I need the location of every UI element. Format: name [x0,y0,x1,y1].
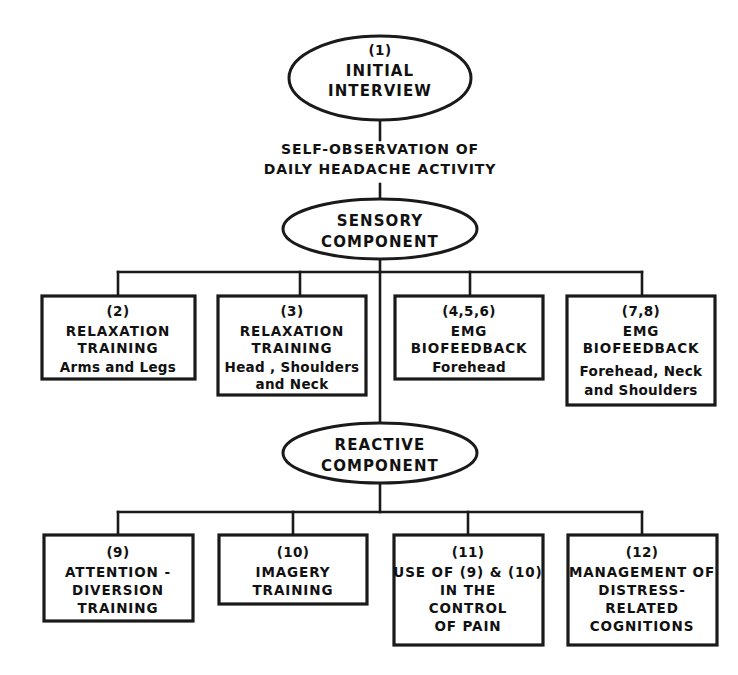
box-78-number: (7,8) [622,303,660,319]
box-3-number: (3) [281,303,304,319]
sensory-component-line2: COMPONENT [321,233,439,251]
box-456-number: (4,5,6) [442,303,496,319]
box-10-line2: TRAINING [253,582,334,598]
box-11-line3: CONTROL [429,600,508,616]
box-9-line2: DIVERSION [72,582,164,598]
box-relaxation-arms-legs[interactable]: (2) RELAXATION TRAINING Arms and Legs [42,296,195,379]
box-12-line3: RELATED [605,600,679,616]
node-reactive-component[interactable]: REACTIVE COMPONENT [283,423,477,483]
reactive-component-line1: REACTIVE [335,436,426,454]
box-456-line2: BIOFEEDBACK [411,340,528,356]
box-456-sub1: Forehead [432,359,506,375]
box-9-line3: TRAINING [78,600,159,616]
node-initial-interview[interactable]: (1) INITIAL INTERVIEW [289,36,471,120]
initial-interview-number: (1) [369,42,392,58]
flowchart-diagram: (1) INITIAL INTERVIEW SELF-OBSERVATION O… [0,0,738,675]
box-imagery-training[interactable]: (10) IMAGERY TRAINING [219,535,367,604]
box-11-line1: USE OF (9) & (10) [393,564,542,580]
box-2-line2: TRAINING [78,340,159,356]
box-12-line1: MANAGEMENT OF [569,564,715,580]
box-3-sub1: Head , Shoulders [225,359,360,375]
reactive-component-line2: COMPONENT [321,457,439,475]
box-10-number: (10) [277,544,310,560]
box-12-line4: COGNITIONS [590,618,695,634]
node-self-observation-label: SELF-OBSERVATION OF DAILY HEADACHE ACTIV… [264,141,497,177]
box-2-sub1: Arms and Legs [60,359,176,375]
box-78-line2: BIOFEEDBACK [583,340,700,356]
box-12-number: (12) [626,544,659,560]
box-10-line1: IMAGERY [256,564,331,580]
box-3-sub2: and Neck [256,376,330,392]
box-9-number: (9) [107,544,130,560]
self-observation-line2: DAILY HEADACHE ACTIVITY [264,161,497,177]
box-emg-biofeedback-forehead-neck-shoulders[interactable]: (7,8) EMG BIOFEEDBACK Forehead, Neck and… [567,296,715,405]
box-78-sub2: and Shoulders [584,382,697,398]
box-use-of-9-and-10-control-of-pain[interactable]: (11) USE OF (9) & (10) IN THE CONTROL OF… [393,535,543,645]
initial-interview-line2: INTERVIEW [328,82,432,100]
box-12-line2: DISTRESS- [598,582,685,598]
box-11-line2: IN THE [440,582,496,598]
box-management-of-distress-related-cognitions[interactable]: (12) MANAGEMENT OF DISTRESS- RELATED COG… [568,535,717,645]
box-relaxation-head-shoulders-neck[interactable]: (3) RELAXATION TRAINING Head , Shoulders… [218,296,366,395]
box-78-line1: EMG [623,323,659,339]
self-observation-line1: SELF-OBSERVATION OF [281,141,479,157]
box-3-line1: RELAXATION [240,323,344,339]
sensory-component-line1: SENSORY [337,212,423,230]
node-sensory-component[interactable]: SENSORY COMPONENT [283,199,477,259]
box-3-line2: TRAINING [252,340,333,356]
box-456-line1: EMG [451,323,487,339]
box-11-number: (11) [452,544,485,560]
box-attention-diversion-training[interactable]: (9) ATTENTION - DIVERSION TRAINING [44,535,193,621]
box-2-line1: RELAXATION [66,323,170,339]
initial-interview-line1: INITIAL [346,62,414,80]
flowchart-canvas: (1) INITIAL INTERVIEW SELF-OBSERVATION O… [0,0,738,675]
box-11-line4: OF PAIN [434,618,501,634]
box-78-sub1: Forehead, Neck [580,363,703,379]
box-9-line1: ATTENTION - [65,564,171,580]
box-emg-biofeedback-forehead[interactable]: (4,5,6) EMG BIOFEEDBACK Forehead [395,296,543,379]
box-2-number: (2) [107,303,130,319]
